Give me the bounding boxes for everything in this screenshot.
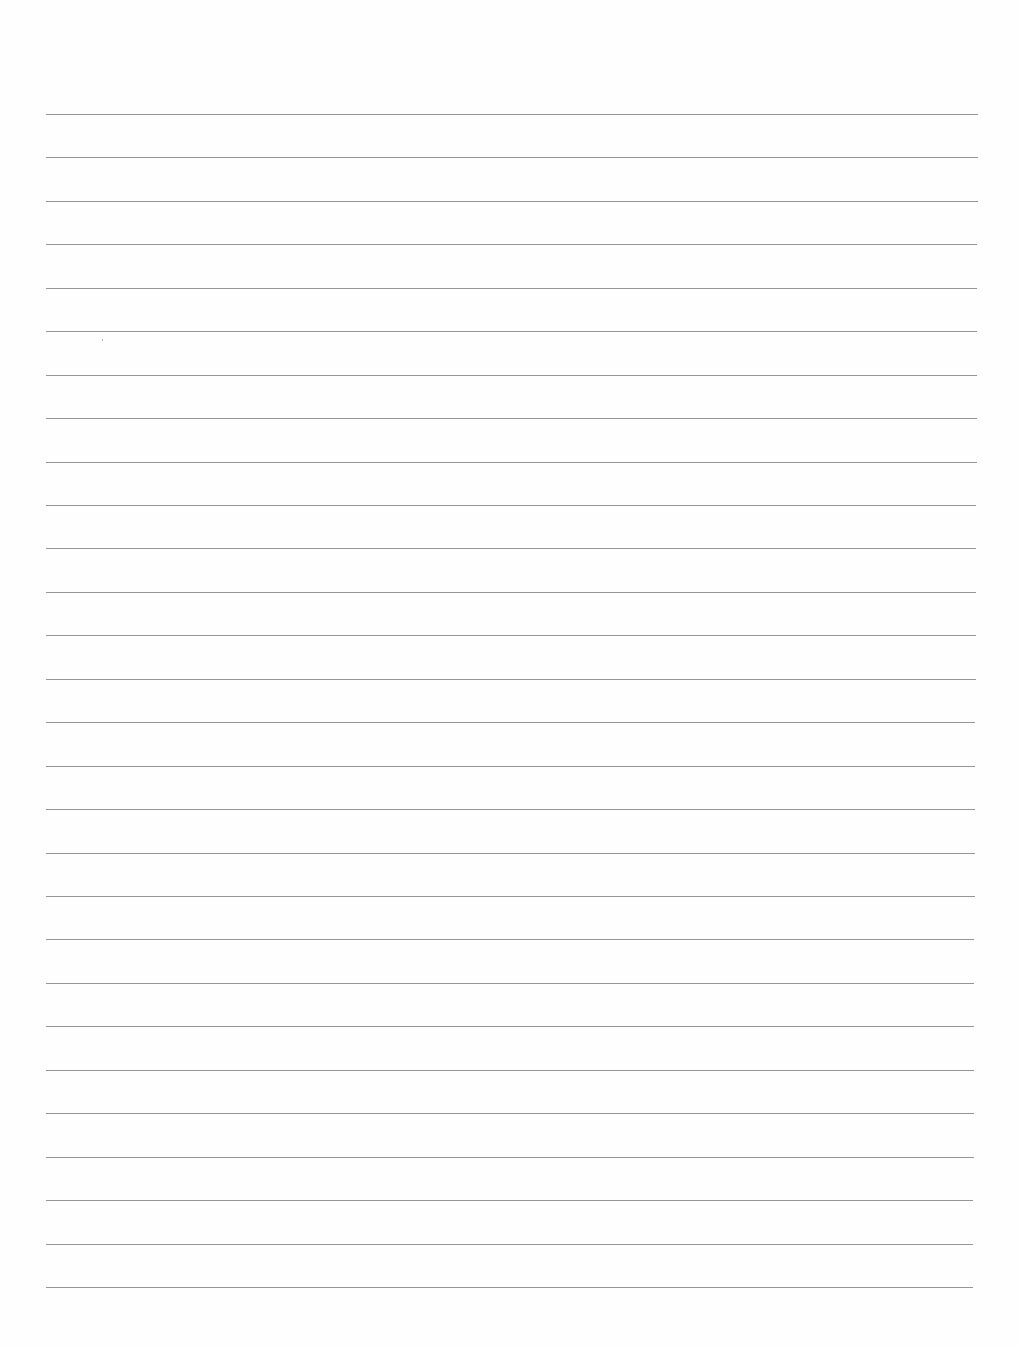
ruled-line xyxy=(46,157,978,158)
ruled-line xyxy=(46,679,976,680)
ruled-line xyxy=(46,1157,974,1158)
ruled-line xyxy=(46,1070,974,1071)
ruled-line xyxy=(46,548,976,549)
ruled-line xyxy=(46,331,977,332)
ruled-line xyxy=(46,1113,974,1114)
ruled-line xyxy=(46,983,974,984)
ruled-line xyxy=(46,418,977,419)
ruled-line xyxy=(46,635,976,636)
ruled-line xyxy=(46,1287,973,1288)
ruled-line xyxy=(46,375,977,376)
ruled-line xyxy=(46,1200,973,1201)
ruled-line xyxy=(46,722,975,723)
ruled-line xyxy=(46,809,975,810)
paper-speck xyxy=(102,339,103,341)
ruled-line xyxy=(46,244,977,245)
ruled-line xyxy=(46,462,977,463)
ruled-line xyxy=(46,766,975,767)
ruled-line xyxy=(46,1244,973,1245)
ruled-line xyxy=(46,896,975,897)
ruled-line xyxy=(46,1026,974,1027)
lined-paper-sheet xyxy=(0,0,1020,1348)
ruled-line xyxy=(46,201,978,202)
ruled-line xyxy=(46,288,977,289)
ruled-line xyxy=(46,114,978,115)
ruled-line xyxy=(46,505,976,506)
ruled-line xyxy=(46,853,975,854)
ruled-line xyxy=(46,592,976,593)
ruled-line xyxy=(46,939,974,940)
